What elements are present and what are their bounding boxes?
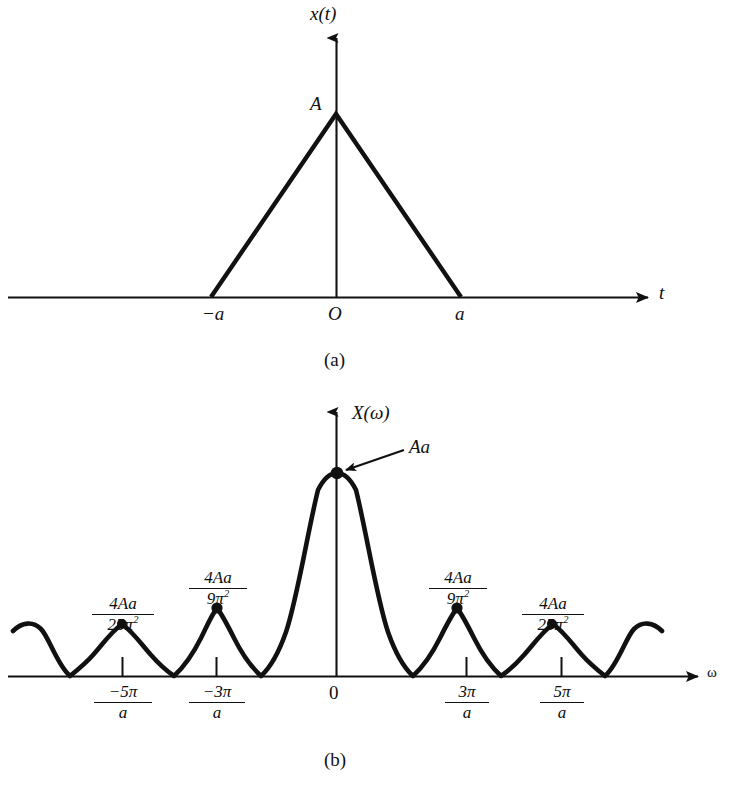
lobe-value-plus-3pi-den-base: 9π (447, 589, 464, 608)
panel-b-graph (8, 412, 698, 677)
lobe-value-minus-5pi-numerator: 4Aa (92, 595, 154, 614)
panel-a-peak-label: A (310, 94, 322, 113)
lobe-value-plus-3pi: 4Aa 9π2 (429, 569, 487, 609)
panel-a-caption: (a) (324, 350, 345, 369)
lobe-value-plus-3pi-den-exponent: 2 (464, 589, 469, 600)
xtick-label-minus-5pi-over-a: −5π a (94, 683, 152, 723)
lobe-value-minus-5pi-denominator: 25π2 (92, 614, 154, 634)
lobe-value-plus-3pi-numerator: 4Aa (429, 569, 487, 588)
xtick-minus-3pi-denominator: a (189, 702, 245, 722)
lobe-value-minus-5pi: 4Aa 25π2 (92, 595, 154, 635)
panel-a-graph (8, 38, 648, 298)
lobe-value-minus-3pi-numerator: 4Aa (189, 569, 247, 588)
lobe-value-minus-3pi-den-base: 9π (207, 589, 224, 608)
lobe-value-plus-5pi-denominator: 25π2 (522, 614, 584, 634)
panel-b-x-axis-label: ω (707, 665, 717, 680)
panel-a-tick-label-minus-a: −a (202, 304, 224, 323)
figure-root: x(t) t A −a O a (a) X(ω) ω Aa 0 4Aa 25π2… (0, 0, 748, 798)
lobe-value-plus-5pi: 4Aa 25π2 (522, 595, 584, 635)
xtick-label-minus-3pi-over-a: −3π a (189, 683, 245, 723)
panel-a-x-axis-label: t (659, 283, 664, 302)
lobe-value-minus-3pi-denominator: 9π2 (189, 588, 247, 608)
lobe-value-plus-5pi-numerator: 4Aa (522, 595, 584, 614)
panel-a-origin-label: O (328, 304, 342, 323)
xtick-plus-3pi-denominator: a (445, 702, 489, 722)
lobe-value-minus-5pi-den-exponent: 2 (133, 615, 138, 626)
lobe-value-plus-3pi-denominator: 9π2 (429, 588, 487, 608)
xtick-minus-5pi-denominator: a (94, 702, 152, 722)
panel-a-y-axis-label: x(t) (310, 4, 336, 23)
lobe-value-minus-5pi-den-base: 25π (108, 615, 134, 634)
xtick-plus-5pi-denominator: a (540, 702, 584, 722)
panel-b-origin-label: 0 (329, 683, 339, 702)
panel-a-tick-label-plus-a: a (455, 304, 465, 323)
lobe-value-plus-5pi-den-base: 25π (538, 615, 564, 634)
xtick-plus-3pi-numerator: 3π (445, 683, 489, 702)
lobe-value-plus-5pi-den-exponent: 2 (563, 615, 568, 626)
figure-canvas (0, 0, 748, 798)
peak-dot-center (331, 467, 343, 479)
xtick-minus-5pi-numerator: −5π (94, 683, 152, 702)
xtick-label-plus-5pi-over-a: 5π a (540, 683, 584, 723)
lobe-value-minus-3pi: 4Aa 9π2 (189, 569, 247, 609)
lobe-value-minus-3pi-den-exponent: 2 (224, 589, 229, 600)
panel-b-peak-annotation-label: Aa (409, 437, 430, 456)
peak-annotation-arrow (346, 450, 404, 470)
xtick-minus-3pi-numerator: −3π (189, 683, 245, 702)
xtick-plus-5pi-numerator: 5π (540, 683, 584, 702)
panel-b-y-axis-label: X(ω) (352, 403, 390, 422)
xtick-label-plus-3pi-over-a: 3π a (445, 683, 489, 723)
panel-b-caption: (b) (324, 750, 346, 769)
